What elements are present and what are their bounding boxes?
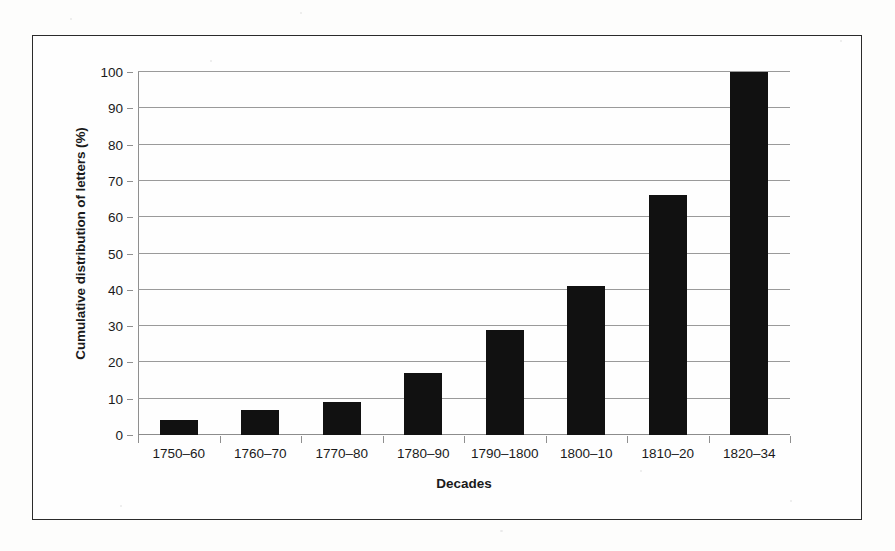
y-axis-tick-label: 50 xyxy=(108,246,123,261)
x-axis-tick-label: 1790–1800 xyxy=(471,446,539,461)
y-axis-tick-label: 90 xyxy=(108,101,123,116)
x-axis-tick-label: 1770–80 xyxy=(315,446,368,461)
gridline xyxy=(138,289,790,290)
y-axis-tick xyxy=(127,254,133,255)
bar xyxy=(404,373,442,435)
y-axis-tick-labels: 0102030405060708090100 xyxy=(33,72,133,436)
y-axis-tick-label: 70 xyxy=(108,173,123,188)
gridline xyxy=(138,107,790,108)
y-axis-tick-label: 30 xyxy=(108,319,123,334)
x-axis-tick xyxy=(301,436,302,443)
bar xyxy=(160,420,198,435)
x-axis-tick xyxy=(709,436,710,443)
gridline xyxy=(138,325,790,326)
y-axis-tick xyxy=(127,145,133,146)
gridline xyxy=(138,434,790,435)
x-axis-tick-label: 1750–60 xyxy=(152,446,205,461)
gridline xyxy=(138,361,790,362)
y-axis-tick xyxy=(127,181,133,182)
gridline xyxy=(138,180,790,181)
bar xyxy=(323,402,361,435)
bar xyxy=(649,195,687,435)
x-axis-tick xyxy=(546,436,547,443)
bar xyxy=(730,72,768,435)
x-axis-tick xyxy=(138,436,139,443)
x-axis-tick xyxy=(383,436,384,443)
figure-frame: Cumulative distribution of letters (%) 0… xyxy=(32,35,862,520)
scan-speckle xyxy=(500,530,503,532)
gridline xyxy=(138,398,790,399)
bar xyxy=(567,286,605,435)
y-axis-tick-label: 0 xyxy=(115,428,123,443)
x-axis-tick-label: 1760–70 xyxy=(234,446,287,461)
scanned-page: Cumulative distribution of letters (%) 0… xyxy=(0,0,895,551)
y-axis-tick-label: 80 xyxy=(108,137,123,152)
x-axis-tick-label: 1800–10 xyxy=(560,446,613,461)
x-axis-title: Decades xyxy=(138,476,790,491)
y-axis-tick xyxy=(127,326,133,327)
gridline xyxy=(138,71,790,72)
y-axis-tick xyxy=(127,108,133,109)
y-axis-tick xyxy=(127,435,133,436)
gridline xyxy=(138,144,790,145)
x-axis-tick xyxy=(464,436,465,443)
y-axis-tick xyxy=(127,72,133,73)
scan-speckle xyxy=(300,12,302,14)
gridline xyxy=(138,253,790,254)
y-axis-tick-label: 20 xyxy=(108,355,123,370)
bar xyxy=(241,410,279,435)
y-axis-tick-label: 60 xyxy=(108,210,123,225)
x-axis-tick xyxy=(790,436,791,443)
x-axis-tick-label: 1820–34 xyxy=(723,446,776,461)
bar-chart: Cumulative distribution of letters (%) 0… xyxy=(33,36,861,519)
x-axis-tick-labels: 1750–601760–701770–801780–901790–1800180… xyxy=(138,446,790,470)
x-axis-tick-label: 1780–90 xyxy=(397,446,450,461)
scan-speckle xyxy=(70,18,72,20)
y-axis-tick-label: 100 xyxy=(100,65,123,80)
plot-area xyxy=(138,72,790,435)
x-axis-tick xyxy=(220,436,221,443)
x-axis-tick-label: 1810–20 xyxy=(641,446,694,461)
bar xyxy=(486,330,524,435)
x-axis-ticks xyxy=(138,436,790,444)
x-axis-tick xyxy=(627,436,628,443)
gridline xyxy=(138,216,790,217)
y-axis-tick xyxy=(127,217,133,218)
y-axis-tick xyxy=(127,399,133,400)
y-axis-tick xyxy=(127,362,133,363)
y-axis-tick-label: 40 xyxy=(108,282,123,297)
y-axis-tick xyxy=(127,290,133,291)
y-axis-tick-label: 10 xyxy=(108,391,123,406)
